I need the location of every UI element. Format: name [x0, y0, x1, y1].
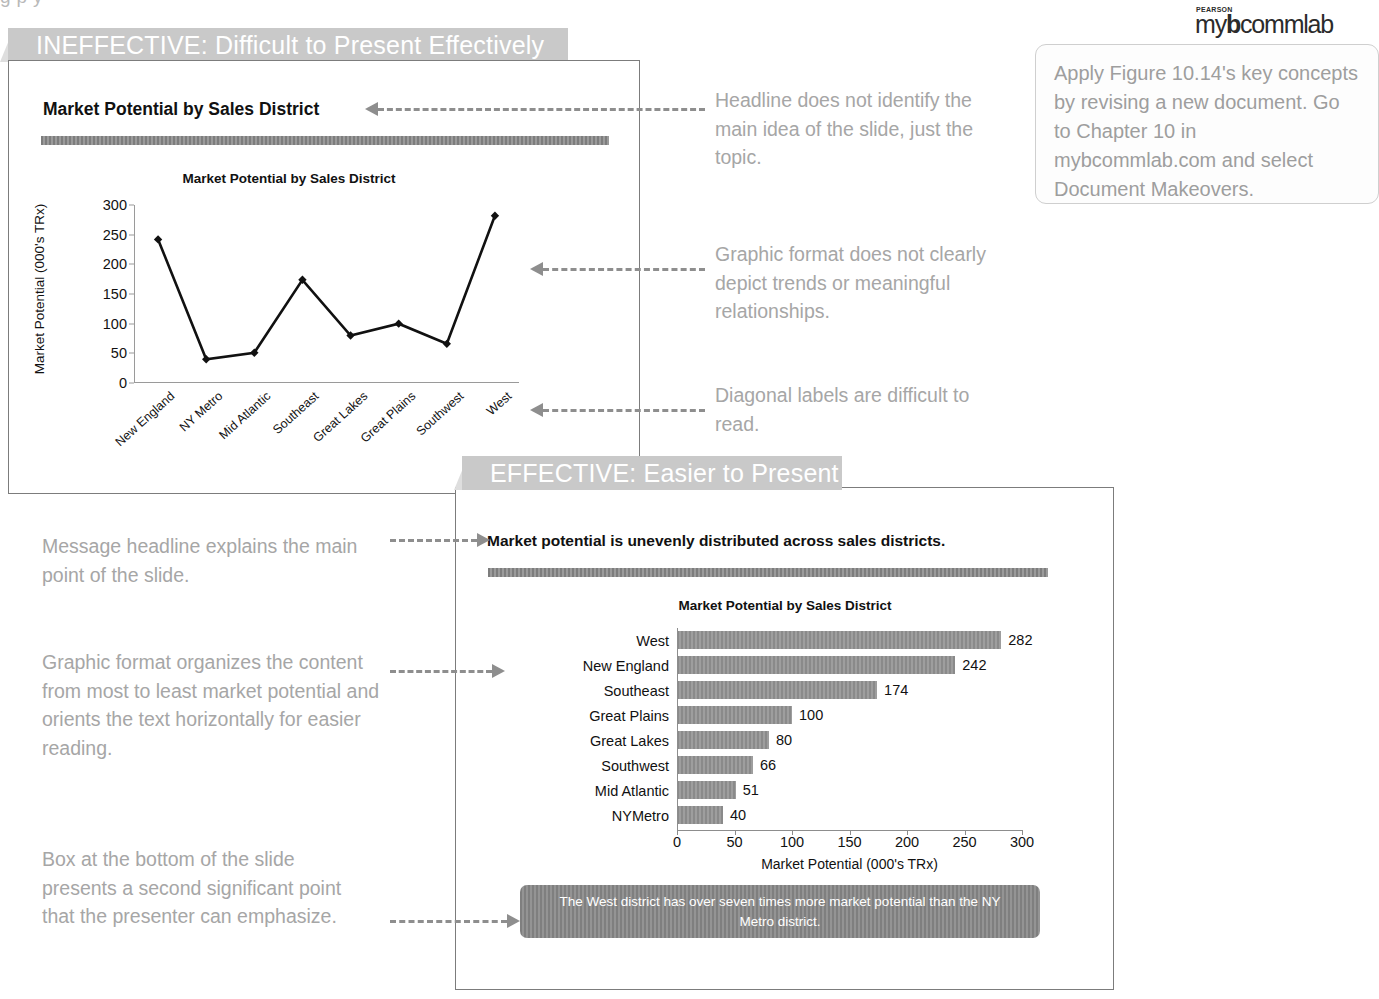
arrow-head-icon [477, 533, 490, 547]
bar-chart-title: Market Potential by Sales District [487, 598, 1083, 613]
bar-chart-x-tickmark [677, 830, 678, 835]
banner-ineffective: INEFFECTIVE: Difficult to Present Effect… [8, 28, 568, 62]
annotation-graphic-note: Graphic format does not clearly depict t… [715, 240, 1005, 326]
mybcommlab-logo: mybcommlab [1195, 10, 1379, 40]
line-chart-plot-area: 050100150200250300New EnglandNY MetroMid… [134, 205, 519, 383]
ineffective-divider-rule [41, 136, 609, 145]
line-chart-series [134, 205, 519, 383]
bar-chart-x-tick: 300 [1010, 834, 1034, 850]
line-chart-y-tickmark [129, 323, 134, 324]
slide-ineffective: Market Potential by Sales District Marke… [8, 60, 640, 494]
bar-chart: Market Potential by Sales District West2… [487, 598, 1083, 858]
bar-chart-track: 40 [677, 803, 1083, 828]
banner-effective: EFFECTIVE: Easier to Present [462, 456, 842, 490]
bar-chart-x-tickmark [850, 830, 851, 835]
arrow-dash [378, 108, 705, 111]
line-chart-y-tick: 250 [103, 227, 127, 243]
arrow-dash [543, 268, 705, 271]
annotation-headline-note: Headline does not identify the main idea… [715, 86, 1005, 172]
bar-chart-x-tick: 50 [726, 834, 742, 850]
bar-chart-category-label: Southwest [487, 758, 677, 774]
bar-chart-category-label: NYMetro [487, 808, 677, 824]
arrow-to-callout-box [390, 915, 520, 927]
bar-chart-track: 242 [677, 653, 1083, 678]
annotation-organize-note: Graphic format organizes the content fro… [42, 648, 382, 763]
annotation-box-note: Box at the bottom of the slide presents … [42, 845, 342, 931]
effective-slide-headline: Market potential is unevenly distributed… [487, 532, 945, 550]
bar-chart-x-tickmark [1022, 830, 1023, 835]
arrow-to-effective-headline [390, 534, 490, 546]
arrow-to-ineffective-headline [365, 103, 705, 115]
bar-chart-track: 100 [677, 703, 1083, 728]
line-chart: Market Potential by Sales District Marke… [9, 171, 641, 491]
line-chart-x-tick-label: NY Metro [177, 389, 225, 435]
bar-chart-category-label: Great Plains [487, 708, 677, 724]
bar-chart-category-label: Mid Atlantic [487, 783, 677, 799]
effective-divider-rule [488, 568, 1048, 577]
arrow-head-icon [507, 914, 520, 928]
bar-chart-bar [677, 756, 753, 774]
arrow-to-diagonal-labels [530, 404, 705, 416]
bar-chart-row: Southeast174 [487, 678, 1083, 703]
bar-chart-bar [677, 706, 792, 724]
bar-chart-track: 51 [677, 778, 1083, 803]
bar-chart-value-label: 66 [760, 756, 776, 774]
line-chart-y-tick: 100 [103, 316, 127, 332]
line-chart-y-tick: 0 [119, 375, 127, 391]
bar-chart-x-tick: 100 [780, 834, 804, 850]
bar-chart-row: NYMetro40 [487, 803, 1083, 828]
bar-chart-row: Great Lakes80 [487, 728, 1083, 753]
bar-chart-category-label: Great Lakes [487, 733, 677, 749]
bar-chart-track: 174 [677, 678, 1083, 703]
line-chart-y-axis-label: Market Potential (000's TRx) [32, 184, 52, 394]
line-chart-x-tick-label: Southwest [413, 389, 466, 438]
bar-chart-x-axis-label: Market Potential (000's TRx) [677, 856, 1022, 872]
arrow-dash [390, 670, 492, 673]
line-chart-x-tick-label: West [484, 389, 514, 418]
bar-chart-value-label: 40 [730, 806, 746, 824]
bar-chart-x-tick: 0 [673, 834, 681, 850]
bar-chart-category-label: Southeast [487, 683, 677, 699]
arrow-to-line-chart [530, 263, 705, 275]
bar-chart-bar [677, 731, 769, 749]
line-chart-y-tickmark [129, 294, 134, 295]
line-chart-y-tick: 300 [103, 197, 127, 213]
bar-chart-x-tickmark [907, 830, 908, 835]
line-chart-y-tick: 150 [103, 286, 127, 302]
bar-chart-row: Mid Atlantic51 [487, 778, 1083, 803]
arrow-head-icon [492, 664, 505, 678]
bar-chart-category-label: West [487, 633, 677, 649]
logo-b: b [1226, 10, 1240, 38]
line-chart-y-tickmark [129, 264, 134, 265]
arrow-head-icon [530, 403, 543, 417]
line-chart-y-tick: 50 [111, 345, 127, 361]
line-chart-y-tickmark [129, 234, 134, 235]
bar-chart-x-tickmark [735, 830, 736, 835]
bar-chart-track: 80 [677, 728, 1083, 753]
bar-chart-x-tick: 200 [895, 834, 919, 850]
bar-chart-row: Southwest66 [487, 753, 1083, 778]
line-chart-x-tick-label: Mid Atlantic [217, 389, 274, 442]
bar-chart-bar [677, 681, 877, 699]
bar-chart-value-label: 80 [776, 731, 792, 749]
bar-chart-row: New England242 [487, 653, 1083, 678]
slide-effective: Market potential is unevenly distributed… [455, 487, 1114, 990]
effective-callout-box: The West district has over seven times m… [520, 885, 1040, 938]
arrow-to-bar-chart [390, 665, 505, 677]
mybcommlab-activity-box: Apply Figure 10.14's key concepts by rev… [1035, 44, 1379, 204]
bar-chart-value-label: 51 [743, 781, 759, 799]
bar-chart-bar [677, 806, 723, 824]
bar-chart-bar [677, 631, 1001, 649]
page-top-fragment: g p y [0, 0, 1379, 10]
bar-chart-track: 66 [677, 753, 1083, 778]
bar-chart-bar [677, 656, 955, 674]
annotation-message-note: Message headline explains the main point… [42, 532, 382, 589]
logo-my: my [1195, 10, 1226, 38]
bar-chart-row: Great Plains100 [487, 703, 1083, 728]
bar-chart-x-tick: 150 [837, 834, 861, 850]
arrow-dash [390, 539, 477, 542]
arrow-head-icon [365, 102, 378, 116]
bar-chart-category-label: New England [487, 658, 677, 674]
bar-chart-bar [677, 781, 736, 799]
bar-chart-track: 282 [677, 628, 1083, 653]
